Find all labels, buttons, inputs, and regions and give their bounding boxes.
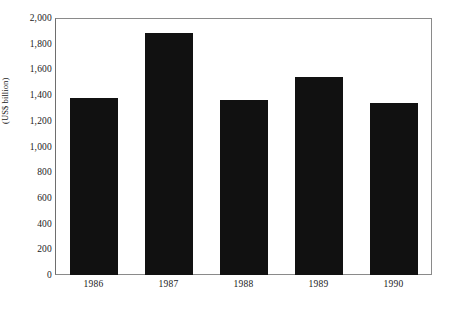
y-axis-tick-label: 1,000 bbox=[8, 142, 52, 152]
y-axis-tick-label: 2,000 bbox=[8, 13, 52, 23]
y-axis-tick-label: 600 bbox=[8, 193, 52, 203]
y-axis-tick-label: 0 bbox=[8, 270, 52, 280]
y-axis-tick-label: 1,800 bbox=[8, 39, 52, 49]
y-axis-tick-label: 1,400 bbox=[8, 90, 52, 100]
bar-chart: (US$ billion) 02004006008001,0001,2001,4… bbox=[0, 0, 450, 309]
bars-container bbox=[56, 19, 431, 275]
bar-1989 bbox=[295, 77, 343, 275]
y-axis-tick-label: 1,200 bbox=[8, 116, 52, 126]
y-axis-tick-label: 1,600 bbox=[8, 64, 52, 74]
y-axis-tick-label: 400 bbox=[8, 219, 52, 229]
x-axis-tick-label: 1990 bbox=[359, 279, 429, 289]
x-axis-tick-label: 1987 bbox=[134, 279, 204, 289]
bar-1986 bbox=[70, 98, 118, 275]
bar-1990 bbox=[370, 103, 418, 275]
x-axis-tick-label: 1986 bbox=[59, 279, 129, 289]
x-axis-tick-label: 1988 bbox=[209, 279, 279, 289]
bar-1987 bbox=[145, 33, 193, 275]
x-axis-tick-labels: 19861987198819891990 bbox=[56, 279, 431, 295]
x-axis-tick-label: 1989 bbox=[284, 279, 354, 289]
y-axis-tick-label: 200 bbox=[8, 244, 52, 254]
y-axis-tick-labels: 02004006008001,0001,2001,4001,6001,8002,… bbox=[8, 0, 52, 309]
bar-1988 bbox=[220, 100, 268, 275]
y-axis-tick-label: 800 bbox=[8, 167, 52, 177]
